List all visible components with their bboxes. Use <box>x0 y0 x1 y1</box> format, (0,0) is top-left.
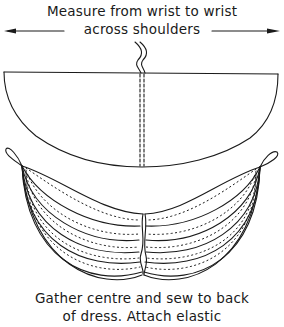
centre-fold <box>140 74 144 166</box>
gathered-drape-left <box>22 166 143 280</box>
diagram-canvas: Measure from wrist to wrist across shoul… <box>0 0 284 327</box>
elastic-loop-right <box>260 152 278 167</box>
bottom-label-line1: Gather centre and sew to back <box>0 290 284 306</box>
diagram-drawing <box>0 0 284 327</box>
centre-gather <box>140 214 146 275</box>
bottom-label-line2: of dress. Attach elastic <box>0 308 284 324</box>
top-label-line2: across shoulders <box>0 21 284 37</box>
fabric-semicircle <box>4 72 278 167</box>
gathered-drape-right <box>144 167 260 280</box>
break-lines <box>135 42 147 73</box>
top-label-line1: Measure from wrist to wrist <box>0 3 284 19</box>
elastic-loop-left <box>6 148 22 166</box>
